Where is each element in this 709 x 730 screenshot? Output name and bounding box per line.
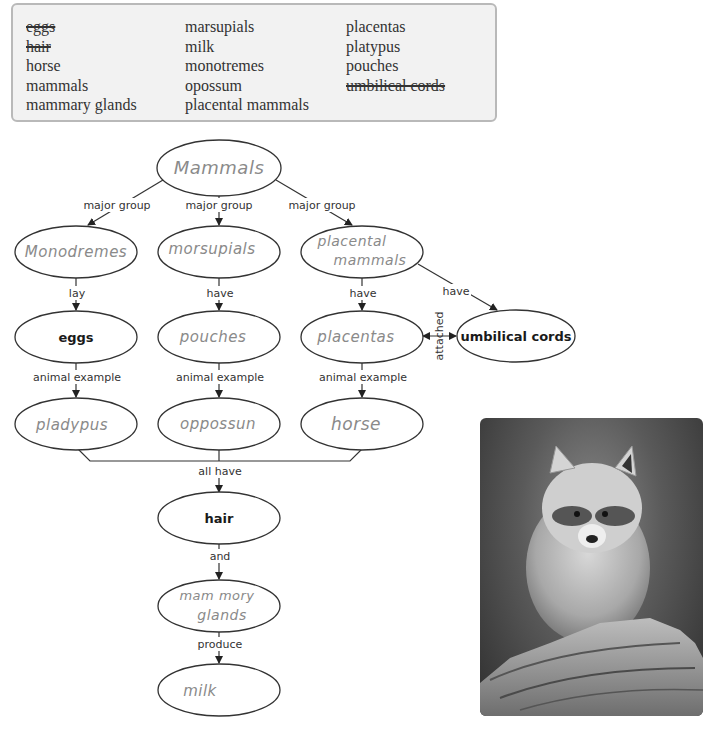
node-text: glands (197, 607, 246, 623)
link-label-animal-example: animal example (319, 371, 407, 384)
link-label-animal-example: animal example (33, 371, 121, 384)
raccoon-image (480, 418, 703, 716)
link-label-major-group: major group (185, 199, 252, 212)
link-label-have: have (207, 287, 234, 300)
node-text: umbilical cords (460, 329, 571, 344)
node-text: pladypus (35, 416, 108, 434)
node-text: oppossun (180, 415, 256, 433)
link-label-animal-example: animal example (176, 371, 264, 384)
node-text: Mammals (174, 157, 265, 178)
link-label-major-group: major group (83, 199, 150, 212)
link-label-all-have: all have (198, 465, 242, 478)
node-text: hair (205, 511, 234, 526)
bracket-line (78, 449, 362, 461)
node-text: horse (331, 414, 381, 434)
link-label-attached: attached (433, 312, 446, 361)
node-milk (158, 664, 280, 716)
node-text: placentas (316, 328, 394, 346)
link-label-major-group: major group (288, 199, 355, 212)
link-label-and: and (210, 550, 231, 563)
raccoon-photo (480, 418, 703, 716)
link-label-lay: lay (69, 287, 86, 300)
link-label-produce: produce (198, 638, 243, 651)
link-label-have: have (350, 287, 377, 300)
node-text: milk (183, 682, 217, 700)
node-text: Monodremes (25, 243, 127, 261)
node-text: morsupials (168, 240, 255, 258)
node-text: mammals (334, 252, 407, 268)
node-text: eggs (58, 330, 93, 345)
node-text: pouches (179, 328, 247, 346)
node-text: placental (317, 233, 387, 249)
node-text: mam mory (179, 588, 254, 603)
link-label-have: have (443, 285, 470, 298)
